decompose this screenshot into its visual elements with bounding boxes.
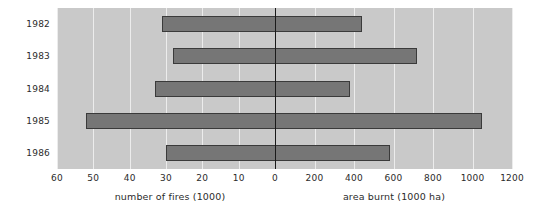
gridline-area-600 [394,8,395,169]
tick-area-200: 200 [298,173,332,183]
bar-1986 [166,145,390,161]
bar-1983 [173,48,417,64]
tick-area-1000: 1000 [456,173,490,183]
tick-fires-20: 20 [185,173,219,183]
gridline-fires-40 [130,8,131,169]
year-label-1982: 1982 [0,19,50,29]
tick-area-800: 800 [416,173,450,183]
right-axis-caption: area burnt (1000 ha) [284,191,504,202]
bar-1982 [162,16,362,32]
zero-axis-line [275,8,276,169]
gridline-area-1000 [473,8,474,169]
tick-fires-50: 50 [76,173,110,183]
tick-area-600: 600 [377,173,411,183]
bidirectional-bar-chart: 19821983198419851986 6050403020100200400… [0,0,535,212]
bar-1985 [86,113,482,129]
year-label-1986: 1986 [0,148,50,158]
year-label-1983: 1983 [0,51,50,61]
gridline-area-1200 [512,8,513,169]
gridline-fires-60 [57,8,58,169]
tick-area-400: 400 [337,173,371,183]
tick-fires-60: 60 [40,173,74,183]
tick-fires-30: 30 [149,173,183,183]
plot-area [57,8,512,169]
left-axis-caption: number of fires (1000) [60,191,280,202]
year-label-1985: 1985 [0,116,50,126]
tick-area-0: 0 [258,173,292,183]
tick-area-1200: 1200 [495,173,529,183]
tick-fires-10: 10 [222,173,256,183]
bar-1984 [155,81,350,97]
tick-fires-40: 40 [113,173,147,183]
gridline-fires-50 [93,8,94,169]
gridline-area-800 [433,8,434,169]
year-label-1984: 1984 [0,84,50,94]
